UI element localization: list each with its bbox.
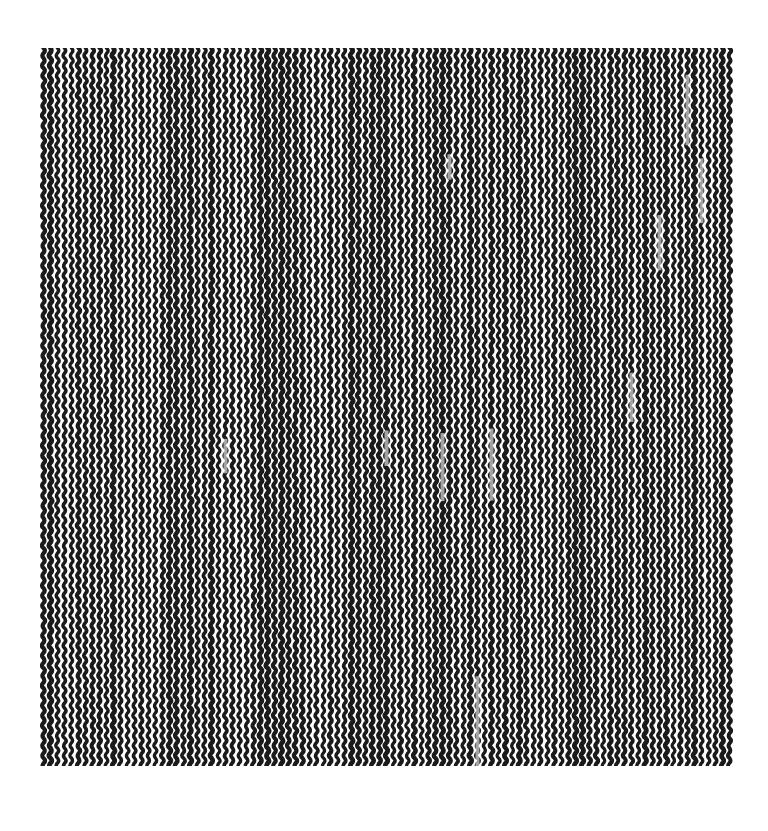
stitch-column xyxy=(70,48,73,766)
stitch-column xyxy=(637,48,640,766)
stitch-column xyxy=(280,48,283,766)
stitch-column xyxy=(140,48,143,766)
stitch-column xyxy=(238,48,241,766)
stitch-column xyxy=(91,48,94,766)
stitch-column xyxy=(427,48,430,766)
stitch-column xyxy=(42,48,45,766)
stitch-column xyxy=(595,48,598,766)
stitch-column xyxy=(294,48,297,766)
stitch-column xyxy=(329,48,332,766)
stitch-column xyxy=(546,48,549,766)
stitch-column xyxy=(567,48,570,766)
stitch-column xyxy=(210,48,213,766)
stitch-column xyxy=(231,48,234,766)
stitch-column xyxy=(343,48,346,766)
stitch-column xyxy=(364,48,367,766)
stitch-column xyxy=(644,48,647,766)
stitch-column xyxy=(112,48,115,766)
stitch-column xyxy=(189,48,192,766)
stitch-column xyxy=(203,48,206,766)
texture-gap xyxy=(686,75,690,146)
stitch-column xyxy=(623,48,626,766)
stitch-column xyxy=(609,48,612,766)
stitch-column xyxy=(672,48,675,766)
stitch-column xyxy=(483,48,486,766)
stitch-column xyxy=(168,48,171,766)
stitch-column xyxy=(378,48,381,766)
stitch-column xyxy=(385,48,388,766)
stitch-column xyxy=(602,48,605,766)
stitch-column xyxy=(245,48,248,766)
stitch-column xyxy=(665,48,668,766)
stitch-column xyxy=(308,48,311,766)
wavy-stitch-texture xyxy=(40,48,734,766)
stitch-column xyxy=(441,48,444,766)
texture-gap xyxy=(490,429,494,501)
stitch-column xyxy=(707,48,710,766)
stitch-column xyxy=(259,48,262,766)
stitch-column xyxy=(658,48,661,766)
stitch-column xyxy=(147,48,150,766)
stitch-column xyxy=(357,48,360,766)
stitch-column xyxy=(399,48,402,766)
stitch-column xyxy=(154,48,157,766)
stitch-column xyxy=(105,48,108,766)
stitch-column xyxy=(553,48,556,766)
stitch-column xyxy=(161,48,164,766)
stitch-column xyxy=(434,48,437,766)
stitch-column xyxy=(273,48,276,766)
texture-gap xyxy=(441,433,445,501)
stitch-column xyxy=(651,48,654,766)
stitch-column xyxy=(315,48,318,766)
stitch-column xyxy=(336,48,339,766)
stitch-column xyxy=(406,48,409,766)
stitch-column xyxy=(497,48,500,766)
stitch-column xyxy=(728,48,731,766)
stitch-column xyxy=(539,48,542,766)
stitch-column xyxy=(462,48,465,766)
stitch-column xyxy=(686,48,689,766)
stitch-column xyxy=(224,48,227,766)
texture-pattern xyxy=(40,48,734,766)
stitch-column xyxy=(301,48,304,766)
texture-gap xyxy=(224,439,228,473)
stitch-column xyxy=(350,48,353,766)
texture-gap xyxy=(630,373,634,422)
stitch-column xyxy=(511,48,514,766)
stitch-column xyxy=(721,48,724,766)
stitch-column xyxy=(322,48,325,766)
stitch-column xyxy=(392,48,395,766)
stitch-column xyxy=(49,48,52,766)
stitch-column xyxy=(98,48,101,766)
stitch-column xyxy=(84,48,87,766)
stitch-column xyxy=(217,48,220,766)
stitch-column xyxy=(504,48,507,766)
stitch-column xyxy=(714,48,717,766)
stitch-column xyxy=(560,48,563,766)
stitch-column xyxy=(490,48,493,766)
stitch-column xyxy=(574,48,577,766)
stitch-column xyxy=(700,48,703,766)
stitch-column xyxy=(413,48,416,766)
stitch-column xyxy=(518,48,521,766)
stitch-column xyxy=(693,48,696,766)
stitch-column xyxy=(63,48,66,766)
stitch-column xyxy=(525,48,528,766)
stitch-column xyxy=(588,48,591,766)
stitch-column xyxy=(133,48,136,766)
stitch-column xyxy=(581,48,584,766)
stitch-column xyxy=(371,48,374,766)
stitch-column xyxy=(126,48,129,766)
texture-gap xyxy=(448,154,452,179)
stitch-column xyxy=(679,48,682,766)
stitch-column xyxy=(182,48,185,766)
stitch-column xyxy=(252,48,255,766)
stitch-column xyxy=(532,48,535,766)
stitch-column xyxy=(616,48,619,766)
stitch-column xyxy=(266,48,269,766)
stitch-column xyxy=(476,48,479,766)
stitch-column xyxy=(455,48,458,766)
texture-gap xyxy=(700,158,704,223)
stitch-column xyxy=(119,48,122,766)
texture-gap xyxy=(385,430,389,465)
